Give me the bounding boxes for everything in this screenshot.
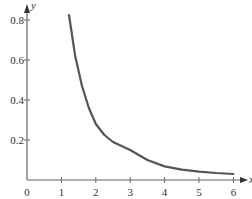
y-axis-arrow-icon	[24, 4, 30, 13]
x-tick-label: 4	[162, 186, 168, 198]
chart: xy 01234560.20.40.60.8	[0, 0, 252, 199]
y-axis-label: y	[30, 0, 36, 11]
y-tick-label: 0.6	[10, 54, 24, 66]
x-tick-label: 6	[231, 186, 237, 198]
series-line-curve	[69, 15, 233, 174]
x-tick-label: 3	[127, 186, 133, 198]
x-tick-label: 1	[59, 186, 65, 198]
plot-area	[69, 15, 233, 174]
axes: xy	[24, 0, 252, 185]
y-tick-label: 0.4	[10, 94, 24, 106]
x-tick-label: 5	[196, 186, 202, 198]
x-tick-label: 0	[24, 186, 30, 198]
x-axis-arrow-icon	[240, 177, 248, 183]
x-tick-label: 2	[93, 186, 99, 198]
y-tick-label: 0.8	[10, 14, 24, 26]
y-tick-label: 0.2	[10, 134, 24, 146]
x-axis-label: x	[248, 173, 252, 185]
ticks: 01234560.20.40.60.8	[10, 14, 236, 198]
